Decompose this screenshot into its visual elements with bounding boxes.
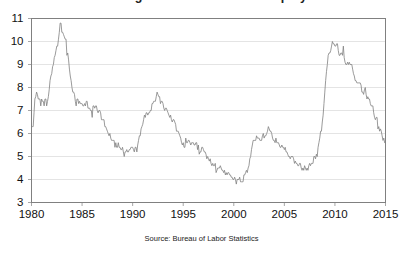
gridlines <box>32 19 386 203</box>
y-axis-tick-label: 7 <box>0 104 24 116</box>
y-axis-tick-label: 8 <box>0 81 24 93</box>
x-axis-tick-label: 1995 <box>161 208 205 220</box>
y-axis-tick-label: 6 <box>0 127 24 139</box>
y-axis-tick-label: 10 <box>0 35 24 47</box>
x-axis-tick-label: 1990 <box>111 208 155 220</box>
y-axis-tick-label: 3 <box>0 196 24 208</box>
y-axis-tick-label: 9 <box>0 58 24 70</box>
y-axis-tick-label: 4 <box>0 173 24 185</box>
x-axis-tick-label: 2005 <box>262 208 306 220</box>
x-axis-tick-label: 2000 <box>212 208 256 220</box>
plot-area: 34567891011 1980198519901995200020052010… <box>0 0 403 257</box>
y-axis-tick-label: 11 <box>0 12 24 24</box>
y-axis-tick-label: 5 <box>0 150 24 162</box>
unemployment-rate-line <box>32 23 385 184</box>
x-axis-tick-label: 1980 <box>10 208 54 220</box>
x-axis-tick-label: 2015 <box>364 208 403 220</box>
source-note: Source: Bureau of Labor Statistics <box>0 234 403 243</box>
chart-figure: Percentage of Labor Force Unemployed 345… <box>0 0 403 257</box>
x-axis-tick-label: 2010 <box>313 208 357 220</box>
x-axis-tick-marks <box>28 19 386 207</box>
x-axis-tick-label: 1985 <box>60 208 104 220</box>
